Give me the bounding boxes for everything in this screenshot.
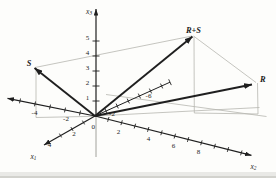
x3-tick-labels: 1 2 3 4 5 bbox=[86, 34, 90, 102]
axis-letters: x3 x1 x2 bbox=[30, 7, 257, 172]
x2-tick-label-6: 6 bbox=[172, 142, 176, 150]
x3-tick-label-1: 1 bbox=[86, 94, 90, 102]
x2-tick-label-4: 4 bbox=[147, 135, 151, 143]
x2-axis-subscript: 2 bbox=[254, 165, 257, 171]
x2-tick-label-2: 2 bbox=[117, 128, 121, 136]
x3-tick-label-4: 4 bbox=[86, 49, 90, 57]
x1-tick-label-neg2: -2 bbox=[109, 110, 115, 118]
x3-tick-label-3: 3 bbox=[86, 64, 90, 72]
page-edge-line bbox=[0, 176, 276, 178]
construction-r-tip-to-rs-tip bbox=[194, 36, 257, 83]
x2-tick-label-neg2: -2 bbox=[63, 115, 69, 123]
x3-tick-label-5: 5 bbox=[86, 34, 90, 42]
construction-s-tip-to-rs-tip bbox=[35, 36, 192, 68]
x1-tick-label-2: 2 bbox=[72, 130, 76, 138]
vector-s-label: S bbox=[27, 59, 32, 68]
construction-r-drop bbox=[258, 83, 259, 114]
x2-tick-label-neg4: -4 bbox=[32, 109, 38, 117]
x1-axis-positive bbox=[44, 116, 95, 145]
vector-addition-3d-figure: 1 2 3 4 5 2 4 6 8 -4 -2 2 4 -2 -6 0 x3 x… bbox=[0, 0, 276, 178]
x2-axis-label: x2 bbox=[250, 162, 257, 172]
x3-axis-label: x3 bbox=[85, 7, 92, 17]
x2-tick-label-8: 8 bbox=[197, 148, 201, 156]
vector-r-plus-s-label: R+S bbox=[185, 26, 201, 35]
x2-positive-tick-marks bbox=[108, 117, 242, 155]
x1-axis-subscript: 1 bbox=[34, 155, 37, 161]
vector-r-label: R bbox=[259, 75, 266, 84]
origin-label: 0 bbox=[91, 123, 95, 131]
x2-tick-labels: 2 4 6 8 -4 -2 bbox=[32, 109, 201, 156]
x1-axis-label: x1 bbox=[30, 152, 37, 162]
x3-tick-label-2: 2 bbox=[86, 79, 90, 87]
vectors bbox=[35, 37, 253, 117]
x3-axis-subscript: 3 bbox=[89, 10, 92, 16]
x2-axis-negative bbox=[8, 98, 96, 116]
axes bbox=[8, 9, 252, 157]
construction-plane-bottom bbox=[194, 113, 258, 114]
x1-tick-label-neg6: -6 bbox=[146, 92, 152, 100]
vector-s bbox=[35, 68, 96, 116]
x1-tick-label-4: 4 bbox=[48, 141, 52, 149]
x2-negative-tick-marks bbox=[20, 99, 81, 116]
